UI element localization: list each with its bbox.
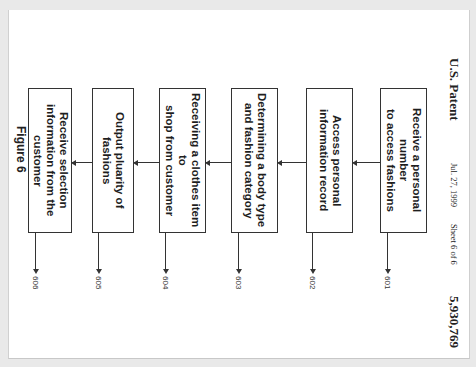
header-sheet: Sheet 6 of 6 <box>449 224 459 265</box>
leader-arrow-605 <box>98 233 99 271</box>
flow-arrow-603-to-604 <box>206 162 231 163</box>
ref-number-602: 602 <box>308 276 317 289</box>
flow-step-605: Output pluarity of fashions <box>92 88 134 233</box>
flow-step-601: Receive a personal number to access fash… <box>380 88 427 233</box>
step-label: Determining a body type and fashion cate… <box>242 93 268 227</box>
figure-caption: Figure 6 <box>14 126 28 173</box>
ref-number-606: 606 <box>31 276 40 289</box>
leader-arrow-601 <box>387 233 388 271</box>
leader-arrow-606 <box>35 233 36 271</box>
flow-step-606: Receive selection information from the c… <box>28 88 72 233</box>
flow-step-604: Receiving a clothes item to shop from cu… <box>159 88 206 233</box>
header-patent-number: 5,930,769 <box>446 296 462 348</box>
flow-step-602: Access personal information record <box>306 88 353 233</box>
flow-arrow-602-to-603 <box>278 162 306 163</box>
leader-arrow-602 <box>312 233 313 271</box>
flow-arrow-604-to-605 <box>134 162 159 163</box>
leader-arrow-603 <box>238 233 239 271</box>
leader-arrow-604 <box>165 233 166 271</box>
flow-arrow-605-to-606 <box>72 162 92 163</box>
step-label: Access personal information record <box>317 109 343 211</box>
header-office: U.S. Patent <box>446 58 462 120</box>
step-label: Output pluarity of fashions <box>100 89 126 232</box>
step-label: Receive a personal number to access fash… <box>384 89 423 232</box>
flow-step-603: Determining a body type and fashion cate… <box>231 88 278 233</box>
step-label: Receive selection information from the c… <box>31 104 70 216</box>
ref-number-605: 605 <box>94 276 103 289</box>
step-label: Receiving a clothes item to shop from cu… <box>163 89 202 232</box>
ref-number-604: 604 <box>161 276 170 289</box>
ref-number-601: 601 <box>383 276 392 289</box>
header-date: Jul. 27, 1999 <box>449 163 459 207</box>
ref-number-603: 603 <box>234 276 243 289</box>
flow-arrow-601-to-602 <box>353 162 380 163</box>
